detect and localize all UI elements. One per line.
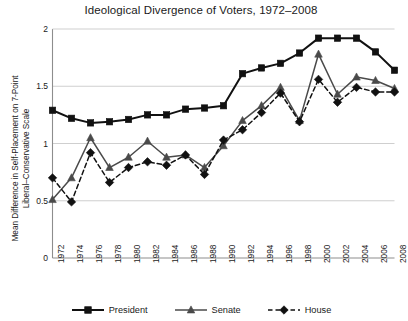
series-line [53,38,395,123]
x-tick-label: 1984 [170,245,180,263]
x-tick-label: 2008 [398,245,408,263]
series-line [53,54,395,199]
legend-label: House [305,305,332,315]
series-layer [48,35,398,206]
data-point-marker [49,107,55,113]
x-tick-label: 1994 [265,245,275,263]
x-tick-label: 1992 [246,245,256,263]
x-tick-label: 2002 [341,245,351,263]
data-point-marker [315,35,321,41]
series-president [49,35,397,126]
x-tick-label: 1974 [75,245,85,263]
data-point-marker [279,306,287,314]
legend-item-house[interactable]: House [267,304,332,316]
legend-swatch-triangle-icon [174,304,208,316]
x-tick-label: 1972 [56,245,66,263]
legend-swatch-square-icon [71,304,105,316]
series-senate [49,50,399,203]
data-point-marker [143,158,151,166]
data-point-marker [68,174,76,181]
legend-swatch-diamond-icon [267,304,301,316]
legend-item-senate[interactable]: Senate [174,304,241,316]
x-tick-label: 1976 [94,245,104,263]
data-point-marker [315,50,323,57]
data-point-marker [86,148,94,156]
data-point-marker [296,50,302,56]
x-tick-label: 1980 [132,245,142,263]
series-house [48,75,398,206]
x-tick-label: 2000 [322,245,332,263]
legend-label: Senate [212,305,241,315]
data-point-marker [353,73,361,80]
data-point-marker [239,70,245,76]
data-point-marker [257,108,265,116]
data-point-marker [144,137,152,144]
data-point-marker [163,112,169,118]
x-tick-label: 1996 [284,245,294,263]
chart-legend: PresidentSenateHouse [0,300,402,320]
x-tick-label: 1982 [151,245,161,263]
x-tick-label: 2006 [379,245,389,263]
data-point-marker [87,120,93,126]
data-point-marker [201,105,207,111]
legend-item-president[interactable]: President [71,304,148,316]
data-point-marker [258,65,264,71]
data-point-marker [295,118,303,126]
x-tick-label: 1998 [303,245,313,263]
data-point-marker [68,115,74,121]
data-point-marker [182,106,188,112]
data-point-marker [106,119,112,125]
data-point-marker [277,60,283,66]
x-tick-label: 1978 [113,245,123,263]
data-point-marker [220,103,226,109]
data-point-marker [353,35,359,41]
data-point-marker [144,112,150,118]
x-tick-label: 1986 [189,245,199,263]
x-tick-label: 1988 [208,245,218,263]
data-point-marker [391,67,397,73]
data-point-marker [372,49,378,55]
data-point-marker [334,35,340,41]
data-point-marker [239,116,247,123]
data-point-marker [371,88,379,96]
data-point-marker [84,307,91,314]
data-point-marker [87,134,95,141]
x-tick-label: 2004 [360,245,370,263]
data-point-marker [390,88,398,96]
legend-label: President [109,305,148,315]
x-tick-label: 1990 [227,245,237,263]
data-point-marker [162,161,170,169]
data-point-marker [125,116,131,122]
